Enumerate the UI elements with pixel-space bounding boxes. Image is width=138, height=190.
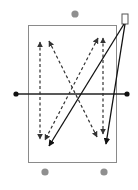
player-bottom-right	[100, 168, 107, 175]
coach-marker	[122, 14, 128, 24]
run-left-diagonal-arrow	[49, 41, 97, 137]
pass-to-bottom-right-arrow	[106, 24, 125, 144]
run-right-diagonal-arrow	[45, 38, 98, 140]
drill-diagram	[0, 0, 138, 190]
right-post-dot	[124, 91, 129, 96]
left-post-dot	[13, 91, 18, 96]
pass-to-bottom-left-arrow	[49, 24, 124, 146]
player-bottom-left	[41, 168, 48, 175]
player-top	[71, 10, 78, 17]
